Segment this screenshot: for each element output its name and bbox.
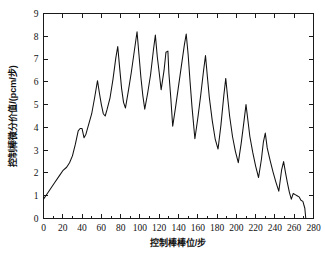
x-tick-label: 200: [229, 223, 244, 233]
plot-background: [0, 0, 325, 256]
x-tick-label: 220: [249, 223, 264, 233]
y-tick-label: 9: [34, 9, 39, 19]
x-tick-label: 100: [133, 223, 148, 233]
chart-figure: 020406080100120140160180200220240260280 …: [0, 0, 325, 256]
x-tick-label: 0: [41, 223, 46, 233]
x-tick-label: 240: [268, 223, 283, 233]
y-tick-label: 2: [34, 168, 39, 178]
x-tick-label: 160: [191, 223, 206, 233]
y-tick-label: 0: [34, 214, 39, 224]
x-tick-label: 140: [171, 223, 186, 233]
x-tick-label: 60: [97, 223, 107, 233]
x-tick-label: 80: [116, 223, 126, 233]
x-axis-tick-labels: 020406080100120140160180200220240260280: [41, 223, 321, 233]
y-tick-label: 1: [34, 191, 39, 201]
y-axis-title: 控制棒微分价值/(pcm/步): [7, 65, 18, 167]
x-tick-label: 40: [77, 223, 87, 233]
y-tick-label: 8: [34, 32, 39, 42]
y-tick-label: 3: [34, 146, 39, 156]
chart-plot-svg: 020406080100120140160180200220240260280 …: [0, 0, 325, 256]
x-tick-label: 20: [58, 223, 68, 233]
x-tick-label: 120: [152, 223, 167, 233]
x-tick-label: 180: [210, 223, 225, 233]
y-tick-label: 7: [34, 54, 39, 64]
x-tick-label: 280: [306, 223, 321, 233]
y-tick-label: 6: [34, 77, 39, 87]
y-tick-label: 5: [34, 100, 39, 110]
x-tick-label: 260: [287, 223, 302, 233]
y-tick-label: 4: [34, 123, 39, 133]
x-axis-title: 控制棒棒位/步: [150, 237, 207, 248]
